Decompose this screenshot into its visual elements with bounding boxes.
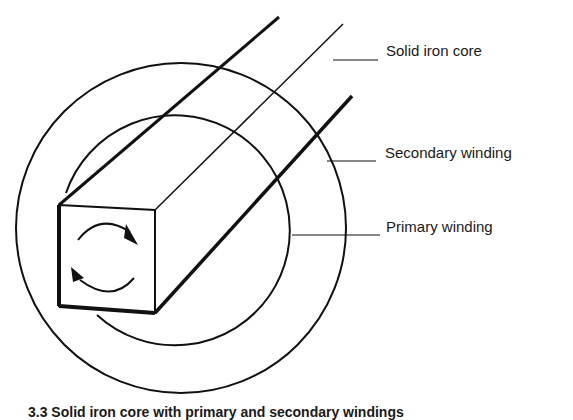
core-top-left-edge	[59, 17, 279, 205]
core-front-face	[59, 205, 155, 313]
label-secondary-winding: Secondary winding	[385, 144, 512, 161]
figure-caption: 3.3 Solid iron core with primary and sec…	[28, 404, 404, 420]
label-solid-iron-core: Solid iron core	[386, 42, 482, 59]
core-top-right-edge	[155, 24, 343, 210]
label-primary-winding: Primary winding	[386, 218, 493, 235]
core-bottom-edge	[155, 96, 352, 313]
